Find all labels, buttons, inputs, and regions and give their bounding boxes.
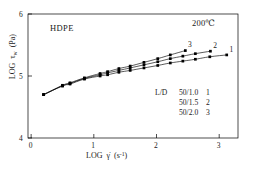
legend-ratio: 50/1.0 <box>179 89 206 97</box>
legend-number: 2 <box>206 99 216 107</box>
data-point-marker <box>184 49 187 52</box>
data-point-marker <box>225 54 228 57</box>
data-point-marker <box>83 77 86 80</box>
legend-number: 1 <box>206 89 216 97</box>
legend-ratio: 50/2.0 <box>179 109 206 117</box>
curve-label-3: 3 <box>188 40 192 49</box>
data-point-marker <box>99 72 102 75</box>
x-tick-label: 3 <box>217 141 221 150</box>
data-point-marker <box>156 57 159 60</box>
y-tick-label: 6 <box>19 10 23 19</box>
x-tick-label: 0 <box>29 141 33 150</box>
data-point-marker <box>118 67 121 70</box>
data-point-marker <box>181 55 184 58</box>
legend-number: 3 <box>206 109 216 117</box>
data-point-marker <box>129 65 132 68</box>
data-point-marker <box>208 55 211 58</box>
data-point-marker <box>69 81 72 84</box>
data-point-marker <box>42 93 45 96</box>
x-tick-label: 1 <box>91 141 95 150</box>
data-point-marker <box>169 57 172 60</box>
data-point-marker <box>169 54 172 57</box>
data-point-marker <box>143 61 146 64</box>
x-axis-label-units-close: ) <box>125 151 128 160</box>
data-point-marker <box>209 50 212 53</box>
data-point-marker <box>143 67 146 70</box>
y-axis-label-main: LOG <box>8 63 17 79</box>
y-axis-label: LOG τw (Pa) <box>9 15 18 99</box>
x-axis-label: LOG γ̇ (s-1) <box>86 152 127 160</box>
y-tick-label: 4 <box>19 134 23 143</box>
y-axis-label-symbol: τ <box>8 56 17 59</box>
data-point-marker <box>169 62 172 65</box>
annotation-temperature: 200℃ <box>192 19 215 28</box>
curve-label-1: 1 <box>229 45 233 54</box>
x-axis-label-symbol: γ̇ <box>106 151 110 160</box>
legend-row: 50/2.0 3 <box>155 109 216 119</box>
annotation-material: HDPE <box>50 24 74 33</box>
data-point-marker <box>156 64 159 67</box>
data-point-marker <box>61 84 64 87</box>
data-point-marker <box>143 63 146 66</box>
y-tick-label: 5 <box>19 72 23 81</box>
legend-ratio: 50/1.5 <box>179 99 206 107</box>
x-axis-label-main: LOG <box>86 151 102 160</box>
x-tick-label: 2 <box>154 141 158 150</box>
legend-title: L/D <box>155 89 179 97</box>
data-point-marker <box>129 69 132 72</box>
data-point-marker <box>106 70 109 73</box>
data-point-marker <box>194 52 197 55</box>
data-point-marker <box>156 60 159 63</box>
y-axis-label-subscript: w <box>12 51 18 55</box>
y-axis-label-units: (Pa) <box>8 34 17 47</box>
chart-figure: HDPE 200℃ L/D 50/1.0 1 50/1.5 2 50/2.0 3… <box>0 0 254 170</box>
data-point-marker <box>181 60 184 63</box>
curve-label-2: 2 <box>213 41 217 50</box>
legend: L/D 50/1.0 1 50/1.5 2 50/2.0 3 <box>155 89 216 119</box>
data-point-marker <box>194 58 197 61</box>
